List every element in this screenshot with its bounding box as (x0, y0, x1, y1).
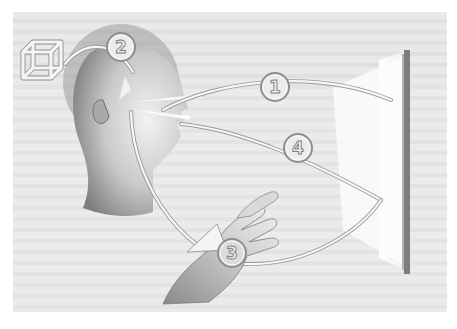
display-screen (333, 50, 410, 274)
badge-4: 4 (284, 134, 312, 162)
badge-3-label: 3 (226, 243, 238, 263)
hci-illustration: 1 2 3 4 (13, 12, 447, 312)
badge-1-label: 1 (269, 77, 281, 97)
badge-4-label: 4 (292, 138, 304, 158)
cube-wireframe-icon (23, 42, 61, 78)
badge-1: 1 (261, 73, 289, 101)
badge-2-label: 2 (115, 37, 127, 57)
badge-3: 3 (218, 239, 246, 267)
badge-2: 2 (107, 33, 135, 61)
figure-panel: 1 2 3 4 (13, 12, 447, 312)
